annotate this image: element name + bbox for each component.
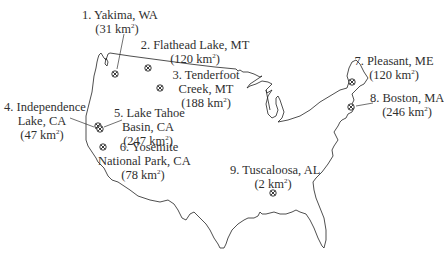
site-label-8-boston: 8. Boston, MA (246 km2) [370,91,444,119]
site-name-line2: National Park, CA [98,154,188,168]
site-label-2-flathead: 2. Flathead Lake, MT (120 km2) [135,38,255,66]
site-label-6-yosemite: 6. Yosemite National Park, CA (78 km2) [98,140,188,182]
site-marker-8-boston[interactable] [348,104,354,110]
site-name: 2. Flathead Lake, MT [135,38,255,52]
site-marker-5-lake-tahoe[interactable] [97,126,103,132]
site-marker-3-tenderfoot[interactable] [157,85,163,91]
site-area: (120 km2) [352,68,436,82]
us-site-map: 1. Yakima, WA (31 km2) 2. Flathead Lake,… [0,0,444,262]
site-name-line2: Lake, CA [4,114,80,128]
site-name-line2: Basin, CA [114,120,182,134]
site-area: (78 km2) [98,168,188,182]
site-label-3-tenderfoot: 3. Tenderfoot Creek, MT (188 km2) [168,68,244,110]
puget-sound-detail [105,58,108,66]
site-marker-1-yakima[interactable] [112,71,118,77]
site-area: (2 km2) [230,177,316,191]
site-label-7-pleasant: 7. Pleasant, ME (120 km2) [352,54,436,82]
site-area: (120 km2) [135,52,255,66]
site-name: 3. Tenderfoot [168,68,244,82]
site-area: (246 km2) [370,105,444,119]
site-name: 6. Yosemite [98,140,188,154]
site-label-9-tuscaloosa: 9. Tuscaloosa, AL (2 km2) [230,163,316,191]
site-area: (47 km2) [4,128,80,142]
site-area: (31 km2) [82,22,152,36]
leader-line-yakima [117,34,124,69]
site-name: 7. Pleasant, ME [352,54,436,68]
site-name-line2: Creek, MT [168,82,244,96]
site-label-1-yakima: 1. Yakima, WA (31 km2) [82,8,152,36]
site-name: 8. Boston, MA [370,91,444,105]
site-label-4-independence: 4. Independence Lake, CA (47 km2) [4,100,80,142]
site-name: 4. Independence [4,100,80,114]
site-name: 9. Tuscaloosa, AL [230,163,316,177]
site-name: 1. Yakima, WA [82,8,152,22]
site-name: 5. Lake Tahoe [114,106,182,120]
